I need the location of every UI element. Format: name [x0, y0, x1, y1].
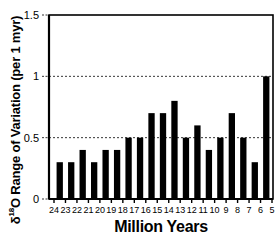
bar: [240, 138, 246, 199]
bar: [263, 76, 269, 199]
y-tick-label: 0: [33, 193, 39, 205]
bar: [217, 138, 223, 199]
x-tick-label: 17: [129, 205, 139, 215]
x-tick-label: 13: [175, 205, 185, 215]
x-axis-title: Million Years: [49, 218, 273, 236]
bar: [148, 113, 154, 199]
x-tick-label: 18: [118, 205, 128, 215]
bar: [229, 113, 235, 199]
x-tick-label: 15: [152, 205, 162, 215]
x-tick-label: 6: [258, 205, 263, 215]
x-tick-label: 5: [269, 205, 274, 215]
x-tick-label: 8: [235, 205, 240, 215]
chart-canvas: 00.511.524232221201918171615141312111098…: [0, 0, 277, 240]
bar: [102, 150, 108, 199]
y-axis-label: δ18O Range of Variation (per 1 myr): [4, 20, 26, 220]
bar: [80, 150, 86, 199]
x-tick-label: 21: [83, 205, 93, 215]
bar: [68, 162, 74, 199]
bar: [183, 138, 189, 199]
x-tick-label: 16: [141, 205, 151, 215]
bar: [125, 138, 131, 199]
x-tick-label: 12: [187, 205, 197, 215]
x-tick-label: 7: [247, 205, 252, 215]
bar: [137, 138, 143, 199]
x-tick-label: 19: [106, 205, 116, 215]
x-tick-label: 20: [95, 205, 105, 215]
x-tick-label: 11: [198, 205, 207, 215]
x-tick-label: 22: [72, 205, 82, 215]
bar-chart: 00.511.524232221201918171615141312111098…: [0, 0, 277, 240]
x-tick-label: 9: [224, 205, 229, 215]
bar: [206, 150, 212, 199]
bar: [171, 101, 177, 199]
y-tick-label: 1: [33, 70, 39, 82]
x-tick-label: 24: [49, 205, 59, 215]
bar: [57, 162, 63, 199]
bar: [194, 125, 200, 199]
bar: [160, 113, 166, 199]
x-tick-label: 14: [164, 205, 174, 215]
x-tick-label: 23: [60, 205, 70, 215]
bar: [252, 162, 258, 199]
bar: [91, 162, 97, 199]
bar: [114, 150, 120, 199]
x-tick-label: 10: [210, 205, 220, 215]
